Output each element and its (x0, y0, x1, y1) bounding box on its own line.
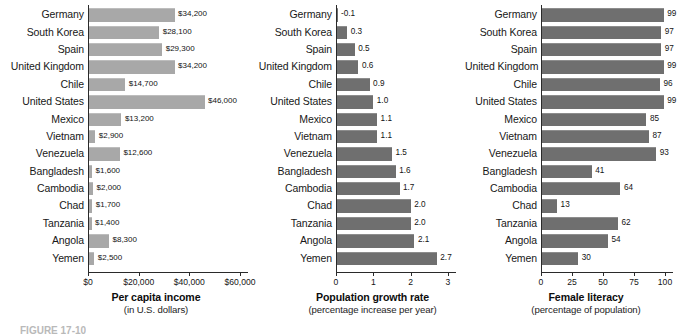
bar-row: Tanzania2.0 (252, 215, 465, 232)
bar (541, 95, 664, 108)
axis-tick (336, 272, 337, 276)
bar (336, 165, 396, 178)
axis-tick-label: 0 (539, 277, 544, 287)
bar-value-label: 0.9 (373, 79, 384, 88)
bar (541, 234, 608, 247)
bar-row: Germany99 (465, 6, 681, 23)
axis-tick-label: $0 (83, 277, 93, 287)
bar-value-label: 97 (665, 27, 674, 36)
bar-track: 41 (541, 163, 681, 180)
bar-value-label: $13,200 (125, 114, 154, 123)
bar-value-label: 2.7 (440, 253, 451, 262)
bar-track: 54 (541, 232, 681, 249)
category-label: South Korea (252, 27, 336, 38)
category-label: Yemen (0, 253, 88, 264)
category-label: United Kingdom (252, 61, 336, 72)
bar (88, 147, 120, 160)
bar-value-label: $8,300 (113, 235, 137, 244)
bar-value-label: 0.6 (362, 61, 373, 70)
bar-track: 1.5 (336, 145, 465, 162)
bar-row: Angola$8,300 (0, 232, 252, 249)
category-label: Cambodia (252, 183, 336, 194)
category-label: Mexico (465, 114, 541, 125)
bar-row: Tanzania$1,400 (0, 215, 252, 232)
bar-track: 1.0 (336, 93, 465, 110)
category-label: United States (0, 96, 88, 107)
bar (88, 78, 125, 91)
bar-row: Germany$34,200 (0, 6, 252, 23)
bar-value-label: -0.1 (341, 9, 355, 18)
bar-row: Venezuela1.5 (252, 145, 465, 162)
bar (541, 199, 557, 212)
bar-track: 2.7 (336, 249, 465, 266)
bar (88, 60, 175, 73)
bar-value-label: 0.5 (358, 44, 369, 53)
bar (541, 8, 664, 21)
bar-value-label: 1.0 (377, 96, 388, 105)
category-label: Spain (465, 44, 541, 55)
category-label: Tanzania (0, 218, 88, 229)
bar (88, 113, 121, 126)
bar-track: 30 (541, 249, 681, 266)
bar (336, 78, 370, 91)
bar-row: Cambodia1.7 (252, 180, 465, 197)
axis-tick-label: 3 (446, 277, 451, 287)
category-label: Tanzania (252, 218, 336, 229)
axis-tick (634, 272, 635, 276)
figure-three-bar-charts: Germany$34,200South Korea$28,100Spain$29… (0, 0, 681, 334)
bar-value-label: 1.1 (381, 114, 392, 123)
chart-panel-female-literacy: Germany99South Korea97Spain97United King… (465, 0, 681, 320)
bar-track: 99 (541, 58, 681, 75)
axis-tick-label: 1 (371, 277, 376, 287)
category-axis-line (541, 272, 673, 273)
axis-tick (572, 272, 573, 276)
bar (88, 8, 175, 21)
category-label: Angola (465, 235, 541, 246)
category-label: Chad (0, 200, 88, 211)
axis-subtitle: (percentage of population) (465, 304, 681, 315)
axis-tick (139, 272, 140, 276)
category-label: Spain (252, 44, 336, 55)
bar (541, 113, 646, 126)
category-label: Mexico (252, 114, 336, 125)
chart-panel-population-growth-rate: Germany-0.1South Korea0.3Spain0.5United … (252, 0, 465, 320)
bar-track: $29,300 (88, 41, 252, 58)
category-label: Cambodia (465, 183, 541, 194)
bar-value-label: 13 (561, 200, 570, 209)
bar-row: Tanzania62 (465, 215, 681, 232)
figure-caption: FIGURE 17-10 (20, 325, 86, 334)
bar-row: South Korea0.3 (252, 23, 465, 40)
category-label: Venezuela (465, 148, 541, 159)
bar-row: Bangladesh$1,600 (0, 163, 252, 180)
bar-row: Spain0.5 (252, 41, 465, 58)
axis-tick (240, 272, 241, 276)
bar-row: Bangladesh1.6 (252, 163, 465, 180)
bar-track: $12,600 (88, 145, 252, 162)
category-label: Bangladesh (0, 166, 88, 177)
bar-value-label: $28,100 (163, 27, 192, 36)
chart-panel-per-capita-income: Germany$34,200South Korea$28,100Spain$29… (0, 0, 252, 320)
bar (336, 43, 355, 56)
bar (541, 26, 661, 39)
bar-value-label: 30 (582, 253, 591, 262)
value-axis-line (336, 5, 337, 273)
axis-tick (665, 272, 666, 276)
bar-row: Yemen30 (465, 249, 681, 266)
bar-row: Angola2.1 (252, 232, 465, 249)
bar-track: $2,900 (88, 128, 252, 145)
category-label: Chile (252, 79, 336, 90)
category-label: Venezuela (252, 148, 336, 159)
bar-value-label: 1.1 (381, 131, 392, 140)
bar (88, 130, 95, 143)
bar-row: Chile96 (465, 76, 681, 93)
bar-track: 2.1 (336, 232, 465, 249)
bar-track: 1.1 (336, 128, 465, 145)
bar (541, 78, 660, 91)
bar-track: 1.7 (336, 180, 465, 197)
bar-row: Chile$14,700 (0, 76, 252, 93)
category-label: Bangladesh (465, 166, 541, 177)
bar (541, 130, 649, 143)
bar-value-label: 1.5 (396, 148, 407, 157)
bar-track: 93 (541, 145, 681, 162)
category-label: Vietnam (0, 131, 88, 142)
